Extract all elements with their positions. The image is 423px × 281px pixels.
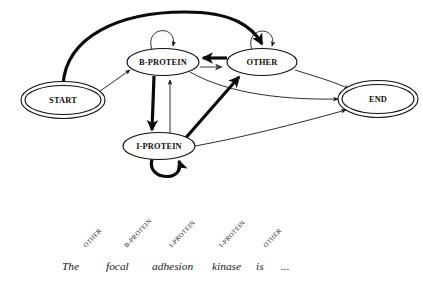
edge-iprotein-to-other (183, 77, 239, 141)
node-other-label: OTHER (247, 58, 279, 67)
edge-bprotein-self-loop (151, 31, 174, 50)
node-start[interactable]: START (21, 82, 105, 119)
node-end-label: END (369, 95, 387, 104)
state-transition-diagram: START B-PROTEIN OTHER I-PROTEIN END (0, 0, 423, 281)
sentence-word-3: adhesion (152, 260, 193, 272)
sequence-label-5: OTHER (262, 227, 283, 249)
sequence-label-row: OTHER B-PROTEIN I-PROTEIN I-PROTEIN OTHE… (82, 217, 283, 249)
sentence-word-6: ... (281, 260, 290, 272)
node-other[interactable]: OTHER (227, 49, 297, 76)
edge-iprotein-to-end (195, 110, 346, 146)
node-bprotein-label: B-PROTEIN (139, 58, 187, 67)
sentence-word-1: The (62, 260, 79, 272)
figure-container: START B-PROTEIN OTHER I-PROTEIN END (0, 0, 423, 281)
edge-iprotein-self-loop (151, 159, 179, 177)
node-end[interactable]: END (338, 81, 418, 118)
node-start-label: START (49, 96, 77, 105)
sentence-word-4: kinase (212, 260, 241, 272)
edge-layer (63, 12, 349, 177)
edge-start-to-bprotein (96, 70, 130, 94)
edge-bprotein-to-iprotein (152, 76, 154, 130)
node-iprotein[interactable]: I-PROTEIN (123, 133, 195, 160)
sequence-label-1: OTHER (82, 227, 103, 249)
node-iprotein-label: I-PROTEIN (136, 142, 182, 151)
sentence-word-5: is (256, 260, 264, 272)
edge-other-to-end (295, 70, 349, 89)
sequence-label-2: B-PROTEIN (123, 217, 153, 249)
sentence-word-2: focal (106, 260, 129, 272)
example-sentence: The focal adhesion kinase is ... (62, 260, 290, 272)
sequence-label-3: I-PROTEIN (168, 219, 197, 249)
edge-bprotein-to-end (190, 72, 338, 99)
sequence-label-4: I-PROTEIN (218, 219, 247, 249)
node-layer: START B-PROTEIN OTHER I-PROTEIN END (21, 49, 418, 160)
node-bprotein[interactable]: B-PROTEIN (127, 49, 199, 76)
